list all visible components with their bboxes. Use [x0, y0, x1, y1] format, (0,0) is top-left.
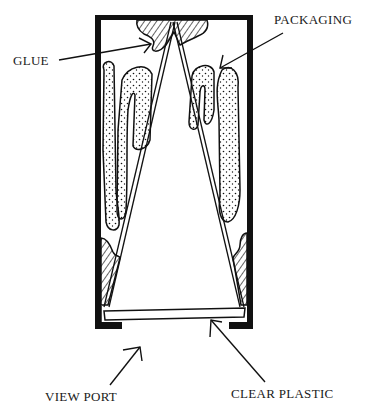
- prism-packaging-diagram: [0, 0, 368, 411]
- clear-plastic-window: [101, 306, 245, 324]
- label-view-port: VIEW PORT: [45, 389, 117, 405]
- label-clear-plastic: CLEAR PLASTIC: [231, 386, 334, 402]
- diagram-canvas: GLUE PACKAGING VIEW PORT CLEAR PLASTIC: [0, 0, 368, 411]
- packaging-right-outer: [217, 68, 240, 222]
- label-packaging: PACKAGING: [274, 12, 352, 28]
- packaging-right: [189, 66, 214, 130]
- label-glue: GLUE: [13, 53, 49, 69]
